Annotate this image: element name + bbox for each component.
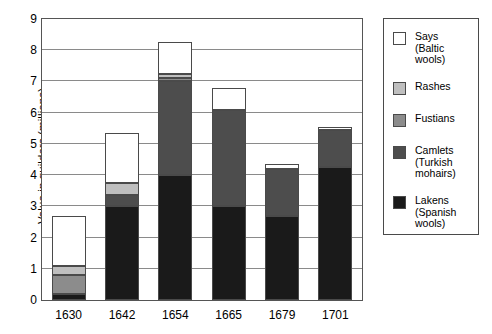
bar-segment[interactable] — [52, 216, 86, 266]
legend-item[interactable]: Lakens (Spanish wools) — [393, 195, 456, 230]
bar-segment[interactable] — [158, 78, 192, 81]
bar-segment[interactable] — [265, 169, 299, 216]
x-tick-label: 1665 — [215, 308, 242, 322]
y-tick-label: 2 — [30, 231, 37, 245]
legend-item-label: Lakens (Spanish wools) — [415, 195, 456, 230]
legend-item-label: Rashes — [415, 81, 451, 93]
x-tick-label: 1630 — [55, 308, 82, 322]
y-tick-label: 4 — [30, 168, 37, 182]
y-tick-label: 9 — [30, 12, 37, 26]
bar-segment[interactable] — [158, 74, 192, 79]
y-tick-label: 1 — [30, 262, 37, 276]
bar-segment[interactable] — [105, 183, 139, 195]
stacked-bar-chart-figure: Value in guilders (millions) 0123456789 … — [0, 0, 492, 334]
y-tick-label: 8 — [30, 43, 37, 57]
x-tick-label: 1701 — [322, 308, 349, 322]
legend-item[interactable]: Camlets (Turkish mohairs) — [393, 145, 456, 180]
bar-segment[interactable] — [105, 195, 139, 206]
y-tick-label: 0 — [30, 293, 37, 307]
bar-group[interactable]: 1630 — [52, 19, 86, 300]
bar-group[interactable]: 1642 — [105, 19, 139, 300]
legend-item[interactable]: Says (Baltic wools) — [393, 31, 445, 66]
bar-group[interactable]: 1701 — [318, 19, 352, 300]
bar-segment[interactable] — [318, 167, 352, 300]
legend-swatch-rashes — [393, 82, 406, 95]
bar-group[interactable]: 1654 — [158, 19, 192, 300]
bar-segment[interactable] — [158, 81, 192, 175]
bar-segment[interactable] — [105, 206, 139, 300]
legend-item-label: Fustians — [415, 113, 455, 125]
bar-group[interactable]: 1679 — [265, 19, 299, 300]
legend-item[interactable]: Fustians — [393, 113, 455, 127]
x-tick-label: 1642 — [109, 308, 136, 322]
bars-layer: 163016421654166516791701 — [42, 19, 362, 300]
y-tick-label: 5 — [30, 137, 37, 151]
bar-segment[interactable] — [318, 127, 352, 130]
bar-segment[interactable] — [158, 42, 192, 73]
plot-area: 0123456789 163016421654166516791701 — [41, 18, 363, 301]
y-tick-label: 7 — [30, 74, 37, 88]
y-tick-label: 6 — [30, 106, 37, 120]
bar-segment[interactable] — [52, 294, 86, 300]
bar-segment[interactable] — [158, 175, 192, 300]
legend-swatch-says — [393, 32, 406, 45]
y-tick-label: 3 — [30, 199, 37, 213]
bar-segment[interactable] — [105, 133, 139, 183]
bar-group[interactable]: 1665 — [212, 19, 246, 300]
legend-swatch-lakens — [393, 196, 406, 209]
legend-item-label: Camlets (Turkish mohairs) — [415, 145, 456, 180]
legend-item-label: Says (Baltic wools) — [415, 31, 445, 66]
bar-segment[interactable] — [265, 216, 299, 300]
bar-segment[interactable] — [265, 164, 299, 169]
bar-segment[interactable] — [52, 275, 86, 294]
legend-swatch-camlets — [393, 146, 406, 159]
x-tick-label: 1654 — [162, 308, 189, 322]
bar-segment[interactable] — [318, 130, 352, 167]
bar-segment[interactable] — [212, 206, 246, 300]
bar-segment[interactable] — [212, 88, 246, 110]
x-tick-label: 1679 — [269, 308, 296, 322]
legend-item[interactable]: Rashes — [393, 81, 451, 95]
legend-swatch-fustians — [393, 114, 406, 127]
bar-segment[interactable] — [212, 110, 246, 207]
bar-segment[interactable] — [52, 266, 86, 275]
chart-legend: Says (Baltic wools)RashesFustiansCamlets… — [383, 18, 479, 235]
